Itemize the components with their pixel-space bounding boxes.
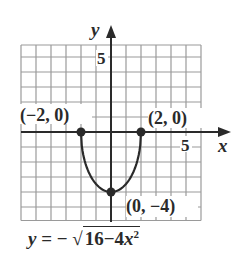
point-label-right: (2, 0) — [148, 108, 187, 129]
data-point — [77, 128, 86, 137]
sqrt-icon: √ — [72, 228, 82, 249]
radicand-constant: 16−4 — [85, 228, 124, 249]
y-axis-label: y — [89, 19, 100, 40]
x-tick-label: 5 — [181, 136, 190, 155]
point-label-left: (−2, 0) — [20, 105, 69, 126]
equation-equals: = − — [36, 228, 72, 249]
radicand-exponent: 2 — [134, 228, 140, 240]
data-point — [137, 128, 146, 137]
data-point — [107, 188, 116, 197]
point-label-bottom: (0, −4) — [126, 196, 175, 217]
y-axis-arrow-icon — [106, 25, 116, 38]
y-tick-label: 5 — [97, 49, 106, 68]
radicand: 16−4x2 — [83, 226, 140, 250]
radicand-variable: x — [124, 228, 134, 249]
equation: y = − √16−4x2 — [28, 226, 140, 250]
x-axis-label: x — [217, 135, 228, 156]
